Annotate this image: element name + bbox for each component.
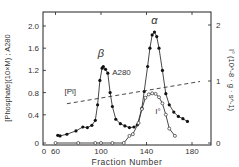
data-point	[58, 134, 61, 137]
data-point	[146, 65, 149, 68]
annotation-a280: A280	[112, 68, 131, 77]
data-point	[168, 127, 171, 130]
data-point	[100, 142, 103, 145]
x-tick-label: 180	[185, 147, 199, 156]
y-left-axis-label: [Phosphate](10×M) ; A280	[3, 34, 12, 121]
plot-axes: 00.40.81.21.62.0012060100140180Fraction …	[3, 12, 236, 167]
data-point	[123, 124, 126, 127]
data-point	[186, 120, 189, 123]
data-point	[161, 69, 164, 72]
chromatography-chart: 00.40.81.21.62.0012060100140180Fraction …	[0, 0, 239, 167]
data-point	[154, 92, 157, 95]
data-point	[151, 92, 154, 95]
x-tick-label: 60	[51, 147, 60, 156]
data-point	[106, 72, 109, 75]
data-point	[177, 115, 180, 118]
y-left-tick-label: 0.4	[28, 111, 40, 120]
data-point	[158, 96, 161, 99]
data-point	[164, 113, 167, 116]
data-point	[144, 96, 147, 99]
data-point	[157, 47, 160, 50]
data-point	[128, 126, 131, 129]
data-point	[77, 142, 80, 145]
y-right-tick-label: 0	[216, 139, 221, 148]
data-point	[96, 103, 99, 106]
data-point	[81, 125, 84, 128]
data-point	[90, 124, 93, 127]
annotation-i: I°	[155, 107, 160, 116]
data-point	[153, 31, 156, 34]
annotation-: β	[97, 47, 105, 59]
data-point	[94, 119, 97, 122]
series-line-pi	[67, 82, 200, 104]
y-left-tick-label: 1.6	[28, 44, 40, 53]
data-point	[128, 134, 131, 137]
data-point	[111, 105, 114, 108]
data-point	[151, 33, 154, 36]
data-point	[137, 122, 140, 125]
data-point	[168, 103, 171, 106]
annotation-: α	[151, 14, 158, 26]
data-point	[131, 133, 134, 136]
y-right-tick-label: 2	[216, 21, 221, 30]
data-point	[109, 91, 112, 94]
series-line-a280	[58, 32, 188, 136]
data-point	[164, 92, 167, 95]
y-left-tick-label: 0.8	[28, 89, 40, 98]
annotation-pi: [Pi]	[65, 87, 77, 96]
x-tick-label: 100	[94, 147, 108, 156]
data-point	[65, 133, 68, 136]
data-point	[114, 118, 117, 121]
plot-frame	[43, 12, 211, 145]
data-point	[122, 142, 125, 145]
data-point	[140, 108, 143, 111]
y-left-tick-label: 0	[35, 139, 40, 148]
x-tick-label: 140	[140, 147, 154, 156]
data-point	[74, 129, 77, 132]
data-point	[155, 35, 158, 38]
y-left-tick-label: 2.0	[28, 22, 40, 31]
y-right-axis-label: I° (10^-8 · g · s^-1)	[227, 49, 236, 112]
data-point	[132, 125, 135, 128]
data-point	[104, 68, 107, 71]
data-point	[147, 93, 150, 96]
y-left-tick-label: 1.2	[28, 66, 40, 75]
data-point	[172, 110, 175, 113]
data-point	[86, 126, 89, 129]
data-point	[98, 79, 101, 82]
data-point	[119, 122, 122, 125]
y-right-tick-label: 1	[216, 77, 221, 86]
plot-labels: βαA280[Pi]I°	[65, 14, 161, 116]
data-point	[148, 47, 151, 50]
data-point	[161, 102, 164, 105]
data-point	[102, 65, 105, 68]
data-point	[94, 142, 97, 145]
x-axis-label: Fraction Number	[92, 157, 163, 167]
data-point	[173, 134, 176, 137]
x-tick-label: 0	[42, 147, 47, 156]
data-point	[54, 142, 57, 145]
data-point	[111, 142, 114, 145]
data-point	[181, 117, 184, 120]
